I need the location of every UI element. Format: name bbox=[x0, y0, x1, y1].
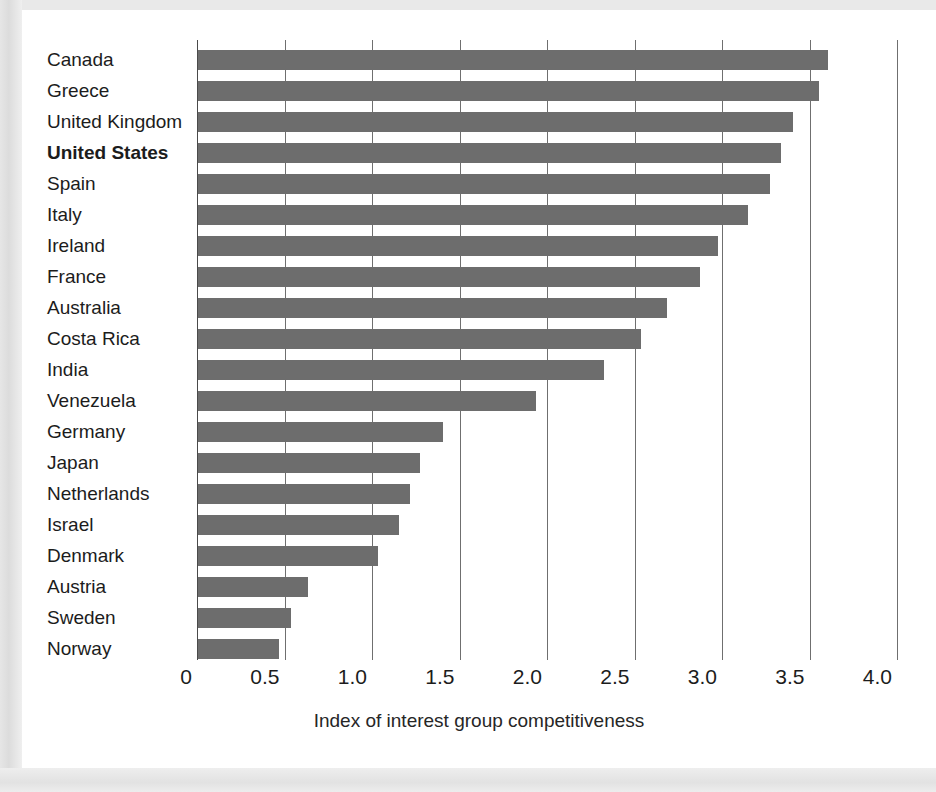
category-label: Canada bbox=[47, 50, 197, 70]
x-tick-label: 3.0 bbox=[688, 665, 722, 689]
category-label: United Kingdom bbox=[47, 112, 197, 132]
bar bbox=[198, 546, 378, 566]
category-label: Germany bbox=[47, 422, 197, 442]
bar bbox=[198, 484, 410, 504]
category-label: Japan bbox=[47, 453, 197, 473]
bar bbox=[198, 174, 770, 194]
bar bbox=[198, 608, 291, 628]
bar bbox=[198, 453, 420, 473]
category-label: Italy bbox=[47, 205, 197, 225]
page-margin-bottom bbox=[0, 768, 936, 792]
category-label: Norway bbox=[47, 639, 197, 659]
x-tick-label: 4.0 bbox=[863, 665, 897, 689]
category-label: Spain bbox=[47, 174, 197, 194]
category-label: Denmark bbox=[47, 546, 197, 566]
category-label: Israel bbox=[47, 515, 197, 535]
bar bbox=[198, 422, 443, 442]
category-label: France bbox=[47, 267, 197, 287]
x-tick-label: 2.5 bbox=[600, 665, 634, 689]
category-label: United States bbox=[47, 143, 197, 163]
bar-chart: CanadaGreeceUnited KingdomUnited StatesS… bbox=[22, 10, 936, 768]
x-tick-label: 0.5 bbox=[250, 665, 284, 689]
bar bbox=[198, 236, 718, 256]
bars-group bbox=[197, 40, 897, 660]
category-label: India bbox=[47, 360, 197, 380]
x-tick-label: 0 bbox=[180, 665, 197, 689]
screenshot-root: CanadaGreeceUnited KingdomUnited StatesS… bbox=[0, 0, 936, 792]
bar bbox=[198, 112, 793, 132]
category-label: Costa Rica bbox=[47, 329, 197, 349]
bar bbox=[198, 329, 641, 349]
gridline-4.0 bbox=[897, 40, 898, 660]
category-label: Ireland bbox=[47, 236, 197, 256]
value-axis-tick-labels: 00.51.01.52.02.53.03.54.0 bbox=[197, 665, 897, 695]
figure-panel: CanadaGreeceUnited KingdomUnited StatesS… bbox=[22, 10, 936, 768]
x-tick-label: 1.0 bbox=[338, 665, 372, 689]
x-tick-label: 3.5 bbox=[775, 665, 809, 689]
category-label: Venezuela bbox=[47, 391, 197, 411]
bar bbox=[198, 391, 536, 411]
bar bbox=[198, 267, 700, 287]
bar bbox=[198, 577, 308, 597]
category-label: Australia bbox=[47, 298, 197, 318]
x-tick-label: 2.0 bbox=[513, 665, 547, 689]
category-label: Austria bbox=[47, 577, 197, 597]
bar bbox=[198, 143, 781, 163]
bar bbox=[198, 205, 748, 225]
bar bbox=[198, 639, 279, 659]
x-axis-title: Index of interest group competitiveness bbox=[22, 710, 936, 732]
bar bbox=[198, 360, 604, 380]
category-label: Netherlands bbox=[47, 484, 197, 504]
x-tick-label: 1.5 bbox=[425, 665, 459, 689]
bar bbox=[198, 50, 828, 70]
category-axis-labels: CanadaGreeceUnited KingdomUnited StatesS… bbox=[47, 40, 197, 660]
category-label: Greece bbox=[47, 81, 197, 101]
bar bbox=[198, 81, 819, 101]
category-label: Sweden bbox=[47, 608, 197, 628]
bar bbox=[198, 298, 667, 318]
page-margin-left bbox=[0, 0, 22, 792]
bar bbox=[198, 515, 399, 535]
